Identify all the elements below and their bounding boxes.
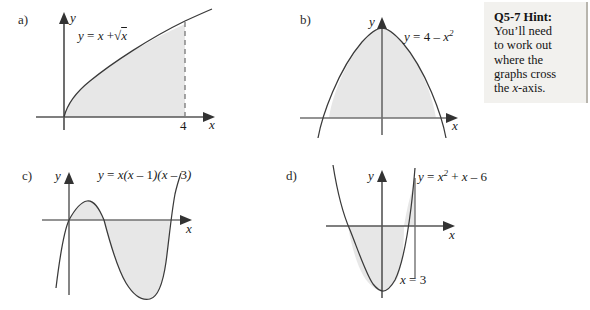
panel-d-shaded-region-below xyxy=(348,226,404,291)
panel-d-graphic xyxy=(0,0,590,310)
panel-d-x-axis-label: x xyxy=(449,227,455,243)
panel-d-equation: y = x2 + x – 6 xyxy=(418,168,487,185)
panel-d-vertical-line-label: x = 3 xyxy=(400,272,426,288)
panel-d-y-axis-arrowhead xyxy=(377,170,387,182)
figure-canvas: a) y = x +√x x y 4 b) xyxy=(0,0,590,310)
panel-d-y-axis-label: y xyxy=(368,168,374,184)
